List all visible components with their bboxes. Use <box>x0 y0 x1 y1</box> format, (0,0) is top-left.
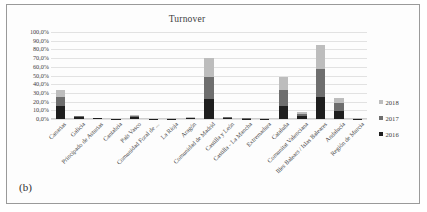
subfigure-label: (b) <box>19 181 32 193</box>
chart-title: Turnover <box>7 14 367 24</box>
y-tick-label: 30,0% <box>9 90 49 96</box>
bar-segment[interactable] <box>316 69 325 97</box>
bar-segment[interactable] <box>279 77 288 90</box>
y-tick-label: 50,0% <box>9 73 49 79</box>
y-tick-label: 60,0% <box>9 64 49 70</box>
bar-group[interactable] <box>56 90 65 119</box>
bar-segment[interactable] <box>334 103 343 111</box>
figure-panel: Turnover 100,0%90,0%80,0%70,0%60,0%50,0%… <box>6 4 420 204</box>
bar-segment[interactable] <box>279 106 288 119</box>
x-tick-label: La Rioja <box>160 121 180 141</box>
y-tick-label: 0,0% <box>9 116 49 122</box>
chart-legend: 201820172016 <box>379 98 419 146</box>
y-tick-label: 100,0% <box>9 29 49 35</box>
chart-container: Turnover 100,0%90,0%80,0%70,0%60,0%50,0%… <box>7 5 421 205</box>
bar-segment[interactable] <box>204 77 213 99</box>
bar-segment[interactable] <box>279 90 288 106</box>
bar-group[interactable] <box>316 45 325 119</box>
bar-segment[interactable] <box>316 45 325 69</box>
bar-segment[interactable] <box>204 58 213 77</box>
x-tick-label: Canarias <box>48 121 68 141</box>
legend-item[interactable]: 2016 <box>379 130 419 138</box>
bar-group[interactable] <box>279 77 288 119</box>
y-tick-label: 10,0% <box>9 107 49 113</box>
legend-swatch-icon <box>379 132 383 136</box>
bars-layer <box>51 32 367 119</box>
legend-label: 2016 <box>386 131 399 138</box>
bar-group[interactable] <box>297 112 306 119</box>
x-axis: CanariasGaliciaPrincipado de AsturiasCan… <box>51 119 367 199</box>
legend-swatch-icon <box>379 116 383 120</box>
y-tick-label: 20,0% <box>9 99 49 105</box>
legend-item[interactable]: 2017 <box>379 114 419 122</box>
legend-label: 2018 <box>386 99 399 106</box>
bar-segment[interactable] <box>56 106 65 119</box>
y-tick-label: 70,0% <box>9 55 49 61</box>
bar-group[interactable] <box>334 98 343 119</box>
bar-segment[interactable] <box>56 90 65 97</box>
bar-segment[interactable] <box>56 97 65 106</box>
y-tick-label: 40,0% <box>9 81 49 87</box>
y-tick-label: 90,0% <box>9 38 49 44</box>
legend-swatch-icon <box>379 100 383 104</box>
bar-segment[interactable] <box>334 111 343 119</box>
bar-segment[interactable] <box>204 99 213 119</box>
y-tick-label: 80,0% <box>9 46 49 52</box>
y-axis: 100,0%90,0%80,0%70,0%60,0%50,0%40,0%30,0… <box>9 32 49 119</box>
bar-group[interactable] <box>204 58 213 119</box>
legend-item[interactable]: 2018 <box>379 98 419 106</box>
legend-label: 2017 <box>386 115 399 122</box>
bar-segment[interactable] <box>316 97 325 119</box>
